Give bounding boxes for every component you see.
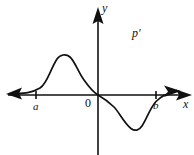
graph-figure: y x 0 a b p′: [0, 0, 194, 155]
curve-label-p-prime: p′: [132, 27, 141, 39]
y-axis-label: y: [102, 2, 107, 14]
tick-label-b: b: [153, 100, 159, 111]
origin-label: 0: [85, 97, 91, 109]
tick-label-a: a: [33, 101, 39, 112]
curve-p-prime: [16, 55, 172, 130]
graph-canvas: [0, 0, 194, 155]
x-axis-label: x: [183, 98, 188, 110]
